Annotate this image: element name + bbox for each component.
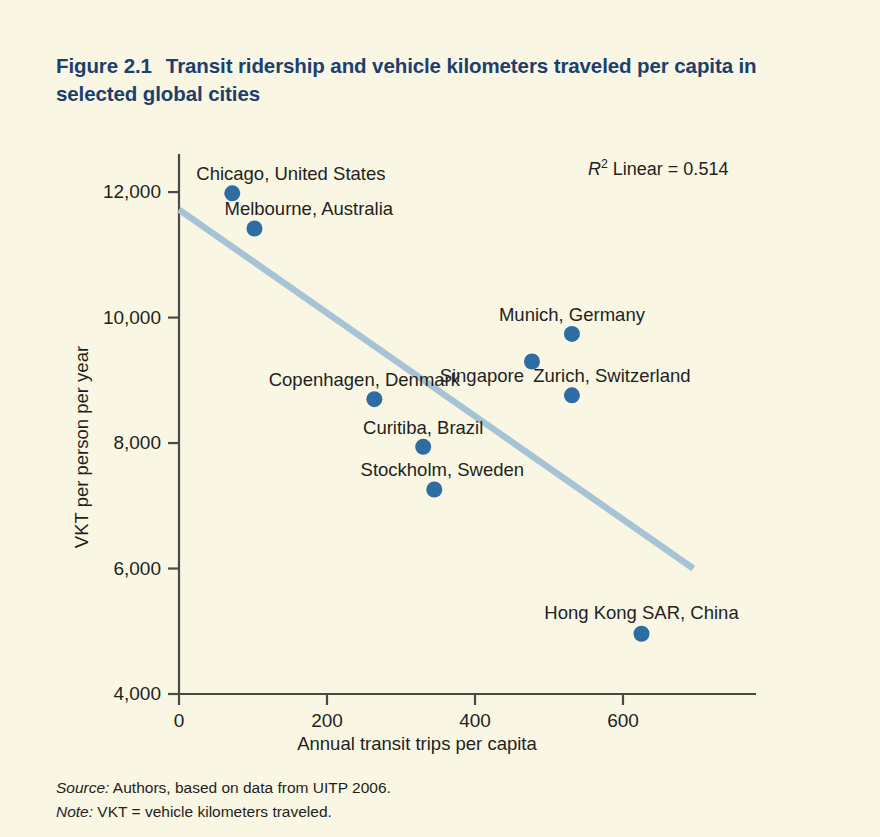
- x-tick-label: 0: [134, 710, 224, 732]
- y-tick-label: 6,000: [51, 558, 161, 580]
- x-tick-label: 400: [430, 710, 520, 732]
- y-tick-label: 12,000: [51, 181, 161, 203]
- data-point-label: Copenhagen, Denmark: [269, 371, 460, 390]
- r-squared-exponent: 2: [601, 157, 608, 171]
- chart-plot-area: 4,0006,0008,00010,00012,000 0200400600 C…: [0, 0, 880, 770]
- x-axis-title: Annual transit trips per capita: [179, 733, 655, 755]
- data-points: [224, 185, 649, 641]
- data-point-label: Chicago, United States: [196, 165, 385, 184]
- data-point-label: Hong Kong SAR, China: [544, 604, 738, 623]
- figure-footnotes: Source: Authors, based on data from UITP…: [56, 776, 391, 824]
- x-tick-label: 600: [578, 710, 668, 732]
- data-point-label: Melbourne, Australia: [224, 200, 393, 219]
- note-line: Note: VKT = vehicle kilometers traveled.: [56, 800, 391, 824]
- data-point-label: Stockholm, Sweden: [361, 461, 525, 480]
- x-tick-label: 200: [282, 710, 372, 732]
- figure-page: Figure 2.1Transit ridership and vehicle …: [0, 0, 880, 837]
- y-tick-label: 8,000: [51, 432, 161, 454]
- y-tick-label: 4,000: [51, 683, 161, 705]
- data-point-label: Munich, Germany: [499, 306, 645, 325]
- data-point-label: Zurich, Switzerland: [533, 367, 690, 386]
- r-squared-symbol: R: [588, 159, 601, 179]
- data-point-label: Curitiba, Brazil: [363, 419, 483, 438]
- y-axis-title: VKT per person per year: [71, 297, 93, 597]
- r-squared-value: Linear = 0.514: [608, 159, 729, 179]
- source-label: Source:: [56, 779, 109, 796]
- source-line: Source: Authors, based on data from UITP…: [56, 776, 391, 800]
- y-tick-label: 10,000: [51, 307, 161, 329]
- note-label: Note:: [56, 803, 93, 820]
- note-text: VKT = vehicle kilometers traveled.: [93, 803, 332, 820]
- r-squared-annotation: R2 Linear = 0.514: [588, 157, 728, 180]
- source-text: Authors, based on data from UITP 2006.: [109, 779, 390, 796]
